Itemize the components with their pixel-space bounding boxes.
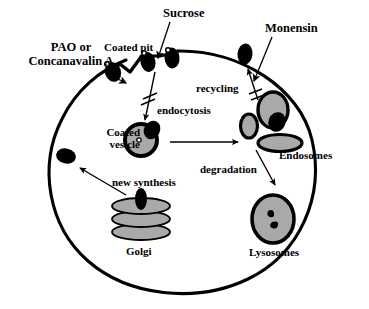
cell-diagram-figure: PAO or Concanavalin A Sucrose Monensin C… bbox=[0, 0, 369, 309]
label-coated-vesicle-line1: Coated bbox=[93, 126, 140, 138]
label-coated-vesicle-line2: vesicle bbox=[93, 138, 140, 150]
membrane-receptor-left bbox=[55, 147, 78, 166]
endocytosis-arrow bbox=[141, 72, 157, 120]
label-new-synthesis: new synthesis bbox=[112, 176, 176, 188]
label-sucrose: Sucrose bbox=[163, 6, 204, 20]
endosome-small bbox=[241, 114, 258, 138]
label-pao-line2: Concanavalin A bbox=[16, 54, 126, 68]
receptor-head-3 bbox=[166, 48, 171, 53]
label-endosomes: Endosomes bbox=[279, 149, 332, 161]
label-recycling: recycling bbox=[196, 82, 239, 94]
label-golgi: Golgi bbox=[126, 245, 152, 257]
label-endocytosis: endocytosis bbox=[157, 104, 211, 116]
golgi-shape bbox=[112, 188, 170, 240]
lysosome-inclusion-1 bbox=[267, 210, 274, 217]
golgi-vesicle-blob bbox=[135, 188, 147, 210]
label-lysosomes: Lysosomes bbox=[249, 246, 299, 258]
label-coated-pit: Coated pit bbox=[104, 41, 153, 53]
label-monensin: Monensin bbox=[265, 21, 318, 35]
label-coated-vesicle: Coated vesicle bbox=[93, 126, 140, 151]
degradation-arrow bbox=[256, 150, 275, 185]
label-degradation: degradation bbox=[200, 163, 257, 175]
lysosome-shape bbox=[252, 195, 294, 243]
